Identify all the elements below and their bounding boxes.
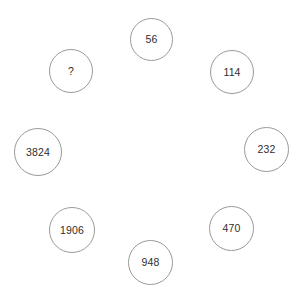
circle-node[interactable]: 470	[209, 206, 254, 251]
circle-node[interactable]: 114	[210, 50, 254, 94]
circle-node[interactable]: 232	[244, 127, 289, 172]
circle-node-label: 1906	[60, 224, 84, 235]
circle-node-label: 232	[258, 144, 276, 155]
circle-node-label: 114	[223, 66, 240, 77]
circle-node-label: 3824	[26, 146, 50, 157]
circle-node[interactable]: 56	[130, 18, 173, 61]
circle-node-unknown[interactable]: ?	[49, 49, 93, 93]
circle-node-label: ?	[68, 65, 74, 76]
circle-node[interactable]: 948	[128, 240, 173, 285]
circle-node[interactable]: 3824	[14, 128, 62, 176]
circle-node-label: 56	[146, 34, 158, 45]
puzzle-canvas: 56 114 232 470 948 1906 3824 ?	[0, 0, 304, 301]
circle-node[interactable]: 1906	[49, 207, 95, 253]
circle-node-label: 948	[142, 257, 160, 268]
circle-node-label: 470	[223, 223, 241, 234]
